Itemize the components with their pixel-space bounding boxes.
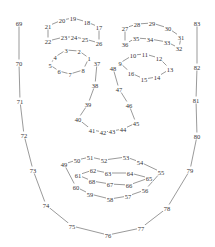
- landmark-label-29: 29: [149, 20, 156, 27]
- landmark-label-37: 37: [94, 60, 101, 67]
- landmark-label-10: 10: [130, 52, 137, 59]
- landmark-labels: 1234567891011121314151617181920212223242…: [15, 15, 201, 239]
- landmark-label-32: 32: [176, 45, 183, 52]
- landmark-label-1: 1: [87, 55, 90, 62]
- landmark-label-55: 55: [158, 169, 165, 176]
- landmark-label-47: 47: [116, 86, 123, 93]
- landmark-label-27: 27: [122, 25, 129, 32]
- landmark-label-83: 83: [194, 20, 201, 27]
- landmark-label-25: 25: [82, 36, 89, 43]
- landmark-label-74: 74: [43, 202, 50, 209]
- landmark-label-54: 54: [137, 159, 144, 166]
- landmark-label-28: 28: [134, 21, 141, 28]
- landmark-label-66: 66: [126, 182, 133, 189]
- landmark-label-38: 38: [92, 82, 99, 89]
- landmark-label-72: 72: [21, 132, 28, 139]
- landmark-label-65: 65: [146, 175, 153, 182]
- landmark-label-56: 56: [142, 187, 149, 194]
- landmark-label-42: 42: [100, 129, 107, 136]
- landmark-label-76: 76: [105, 232, 112, 239]
- landmark-label-77: 77: [138, 225, 145, 232]
- landmark-label-48: 48: [110, 65, 117, 72]
- landmark-label-60: 60: [73, 184, 80, 191]
- landmark-label-5: 5: [48, 62, 51, 69]
- landmark-label-14: 14: [154, 74, 161, 81]
- landmark-label-13: 13: [167, 66, 174, 73]
- landmark-label-8: 8: [81, 67, 84, 74]
- landmark-label-2: 2: [77, 48, 80, 55]
- landmark-label-17: 17: [96, 24, 103, 31]
- landmark-label-39: 39: [85, 101, 92, 108]
- landmark-label-36: 36: [122, 41, 129, 48]
- landmark-label-44: 44: [120, 126, 127, 133]
- landmark-label-68: 68: [89, 178, 96, 185]
- facial-landmark-diagram: 1234567891011121314151617181920212223242…: [0, 0, 215, 247]
- landmark-label-75: 75: [69, 223, 76, 230]
- landmark-label-41: 41: [89, 127, 96, 134]
- landmark-label-30: 30: [165, 25, 172, 32]
- landmark-label-59: 59: [87, 191, 94, 198]
- landmark-label-20: 20: [59, 17, 66, 24]
- landmark-label-63: 63: [105, 170, 112, 177]
- landmark-label-34: 34: [147, 36, 154, 43]
- landmark-label-3: 3: [64, 47, 67, 54]
- landmark-label-61: 61: [75, 172, 82, 179]
- landmark-label-15: 15: [141, 76, 148, 83]
- landmark-label-9: 9: [118, 60, 121, 67]
- landmark-label-78: 78: [164, 205, 171, 212]
- landmark-label-67: 67: [107, 181, 114, 188]
- landmark-label-22: 22: [45, 38, 52, 45]
- landmark-label-18: 18: [84, 19, 91, 26]
- landmark-label-43: 43: [109, 128, 116, 135]
- landmark-label-19: 19: [70, 15, 77, 22]
- landmark-label-62: 62: [90, 167, 97, 174]
- landmark-label-81: 81: [193, 97, 200, 104]
- landmark-label-21: 21: [45, 23, 52, 30]
- landmark-label-73: 73: [30, 167, 37, 174]
- landmark-label-50: 50: [74, 157, 81, 164]
- landmark-label-57: 57: [125, 193, 132, 200]
- landmark-label-64: 64: [127, 170, 134, 177]
- landmark-label-31: 31: [178, 34, 185, 41]
- landmark-label-52: 52: [101, 157, 108, 164]
- landmark-label-24: 24: [71, 34, 78, 41]
- landmark-label-80: 80: [194, 133, 201, 140]
- landmark-label-70: 70: [16, 60, 23, 67]
- landmark-label-53: 53: [123, 154, 130, 161]
- landmark-label-11: 11: [142, 51, 148, 58]
- landmark-label-40: 40: [75, 116, 82, 123]
- landmark-label-71: 71: [17, 98, 24, 105]
- landmark-label-79: 79: [187, 167, 194, 174]
- landmark-label-49: 49: [61, 161, 68, 168]
- landmark-label-58: 58: [107, 196, 114, 203]
- landmark-label-16: 16: [128, 70, 135, 77]
- landmark-label-12: 12: [156, 55, 163, 62]
- landmark-label-46: 46: [126, 102, 133, 109]
- landmark-label-33: 33: [164, 39, 171, 46]
- landmark-label-82: 82: [194, 64, 201, 71]
- landmark-label-51: 51: [87, 154, 94, 161]
- landmark-label-26: 26: [96, 40, 103, 47]
- landmark-label-35: 35: [133, 35, 140, 42]
- landmark-label-69: 69: [16, 20, 23, 27]
- landmark-label-23: 23: [61, 34, 68, 41]
- landmark-label-45: 45: [133, 120, 140, 127]
- landmark-svg: 1234567891011121314151617181920212223242…: [0, 0, 215, 247]
